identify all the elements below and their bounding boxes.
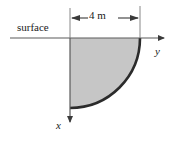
- y-axis-label: y: [155, 46, 160, 57]
- engineering-figure: surface 4 m y x: [0, 0, 180, 142]
- dimension-label: 4 m: [89, 10, 106, 21]
- surface-label: surface: [17, 22, 49, 33]
- x-axis-label: x: [56, 120, 61, 131]
